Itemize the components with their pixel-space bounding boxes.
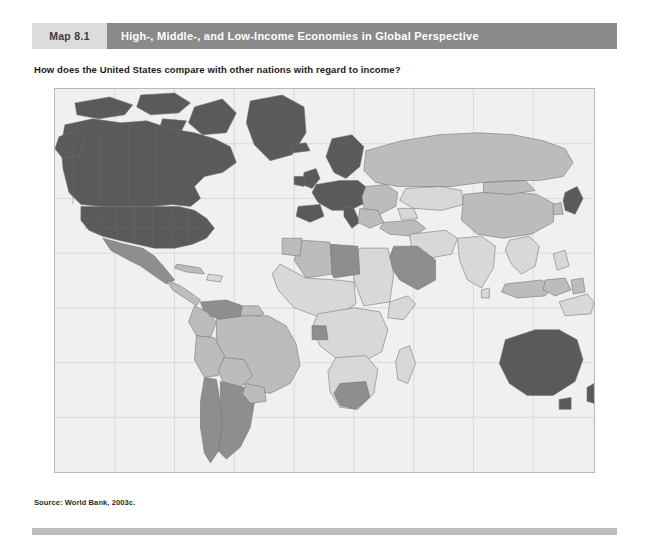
region-tasmania [559, 397, 571, 409]
region-korea [553, 202, 563, 214]
source-note: Source: World Bank, 2003c. [34, 498, 135, 507]
region-iceland [290, 143, 310, 153]
world-map: .ctry{stroke:#6f6f6f;stroke-width:.55;st… [54, 88, 595, 473]
map-number-label: Map 8.1 [49, 30, 90, 42]
region-gabon [312, 326, 328, 340]
world-map-svg: .ctry{stroke:#6f6f6f;stroke-width:.55;st… [55, 89, 594, 472]
region-ireland [294, 177, 304, 187]
map-title-box: High-, Middle-, and Low-Income Economies… [107, 23, 617, 49]
region-sulawesi [571, 278, 585, 294]
region-sri-lanka [481, 288, 489, 298]
map-title-text: High-, Middle-, and Low-Income Economies… [121, 30, 479, 42]
figure-question: How does the United States compare with … [34, 64, 401, 75]
region-morocco [282, 238, 302, 256]
figure-header: Map 8.1 High-, Middle-, and Low-Income E… [32, 23, 617, 49]
bottom-divider [32, 528, 617, 535]
map-number-box: Map 8.1 [32, 23, 107, 49]
